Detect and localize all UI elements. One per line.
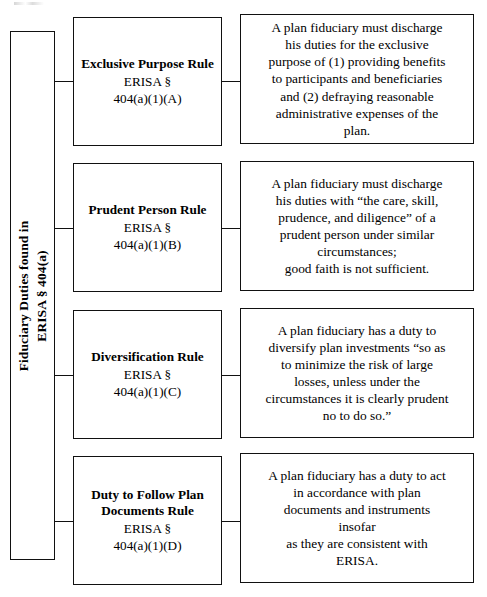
description-node-3-line-5: circumstances it is clearly prudent [248, 390, 466, 407]
rule-node-4-citation-line-1: ERISA § [78, 520, 217, 537]
rule-node-3-citation-line-1: ERISA § [78, 366, 217, 383]
rule-node-1-title-line-2: Rule [187, 56, 213, 71]
root-node-fiduciary-duties: Fiduciary Duties found in ERISA § 404(a) [10, 31, 55, 560]
connector-rule-1-to-description-1 [221, 81, 241, 82]
connector-root-to-rule-1 [55, 81, 74, 82]
rule-node-4-title-line-1: Duty to Follow [91, 487, 175, 502]
rule-node-4-citation-line-2: 404(a)(1)(D) [78, 537, 217, 554]
description-node-2: A plan fiduciary must discharge his duti… [240, 161, 474, 291]
erisa-fiduciary-duties-diagram: Fiduciary Duties found in ERISA § 404(a)… [0, 0, 487, 597]
description-node-4-text: A plan fiduciary has a duty to act in ac… [241, 467, 473, 569]
description-node-4: A plan fiduciary has a duty to act in ac… [240, 453, 474, 583]
description-node-4-line-1: A plan fiduciary has a duty to act [248, 467, 466, 484]
rule-node-3: Diversification Rule ERISA § 404(a)(1)(C… [73, 310, 222, 439]
description-node-2-line-6: good faith is not sufficient. [248, 260, 466, 277]
rule-node-1: Exclusive Purpose Rule ERISA § 404(a)(1)… [73, 17, 222, 146]
description-node-2-line-5: circumstances; [248, 243, 466, 260]
description-node-1-line-5: and (2) defraying reasonable [248, 88, 466, 105]
description-node-1-line-4: to participants and beneficiaries [248, 70, 466, 87]
description-node-3-line-4: losses, unless under the [248, 373, 466, 390]
description-node-1-line-1: A plan fiduciary must discharge [248, 19, 466, 36]
connector-rule-4-to-description-4 [221, 521, 241, 522]
rule-node-1-citation-line-1: ERISA § [78, 73, 217, 90]
description-node-4-line-6: ERISA. [248, 552, 466, 569]
rule-node-3-citation: ERISA § 404(a)(1)(C) [78, 366, 217, 400]
connector-rule-3-to-description-3 [221, 375, 241, 376]
description-node-3-line-3: to minimize the risk of large [248, 356, 466, 373]
rule-node-3-title: Diversification Rule [78, 349, 217, 365]
rule-node-3-title-line-1: Diversification [91, 349, 174, 364]
rule-node-1-citation: ERISA § 404(a)(1)(A) [78, 73, 217, 107]
rule-node-3-citation-line-2: 404(a)(1)(C) [78, 383, 217, 400]
rule-node-4: Duty to Follow Plan Documents Rule ERISA… [73, 456, 222, 585]
connector-rule-2-to-description-2 [221, 228, 241, 229]
rule-node-2-title-line-1: Prudent Person [89, 202, 177, 217]
rule-node-3-title-line-2: Rule [177, 349, 203, 364]
rule-node-1-citation-line-2: 404(a)(1)(A) [78, 90, 217, 107]
rule-node-2-title-line-2: Rule [180, 202, 206, 217]
rule-node-2-citation: ERISA § 404(a)(1)(B) [78, 219, 217, 253]
description-node-3-text: A plan fiduciary has a duty to diversify… [241, 322, 473, 424]
description-node-4-line-4: insofar [248, 518, 466, 535]
rule-node-1-title: Exclusive Purpose Rule [78, 56, 217, 72]
description-node-1-line-7: plan. [248, 122, 466, 139]
connector-root-to-rule-2 [55, 228, 74, 229]
scan-artifact [14, 2, 44, 5]
rule-node-2-citation-line-1: ERISA § [78, 219, 217, 236]
root-node-label: Fiduciary Duties found in ERISA § 404(a) [15, 220, 51, 371]
connector-root-to-rule-3 [55, 375, 74, 376]
root-node-label-line-2: ERISA § 404(a) [33, 220, 51, 371]
description-node-4-line-5: as they are consistent with [248, 535, 466, 552]
description-node-2-line-3: prudence, and diligence” of a [248, 209, 466, 226]
rule-node-2-citation-line-2: 404(a)(1)(B) [78, 236, 217, 253]
description-node-1-line-6: administrative expenses of the [248, 105, 466, 122]
description-node-2-line-4: prudent person under similar [248, 226, 466, 243]
rule-node-4-citation: ERISA § 404(a)(1)(D) [78, 520, 217, 554]
rule-node-4-title-line-3: Rule [167, 503, 193, 518]
root-node-label-line-1: Fiduciary Duties found in [15, 220, 33, 371]
description-node-3-line-2: diversify plan investments “so as [248, 339, 466, 356]
description-node-2-line-1: A plan fiduciary must discharge [248, 175, 466, 192]
connector-root-to-rule-4 [55, 521, 74, 522]
description-node-3-line-6: no to do so.” [248, 407, 466, 424]
description-node-4-line-2: in accordance with plan [248, 484, 466, 501]
description-node-1-line-2: his duties for the exclusive [248, 36, 466, 53]
description-node-1-text: A plan fiduciary must discharge his duti… [241, 19, 473, 138]
description-node-3: A plan fiduciary has a duty to diversify… [240, 308, 474, 438]
rule-node-2: Prudent Person Rule ERISA § 404(a)(1)(B) [73, 163, 222, 292]
description-node-1-line-3: purpose of (1) providing benefits [248, 53, 466, 70]
rule-node-4-title: Duty to Follow Plan Documents Rule [78, 487, 217, 519]
rule-node-2-title: Prudent Person Rule [78, 202, 217, 218]
description-node-4-line-3: documents and instruments [248, 501, 466, 518]
description-node-1: A plan fiduciary must discharge his duti… [240, 14, 474, 144]
description-node-3-line-1: A plan fiduciary has a duty to [248, 322, 466, 339]
rule-node-1-title-line-1: Exclusive Purpose [81, 56, 184, 71]
description-node-2-text: A plan fiduciary must discharge his duti… [241, 175, 473, 277]
description-node-2-line-2: his duties with “the care, skill, [248, 192, 466, 209]
